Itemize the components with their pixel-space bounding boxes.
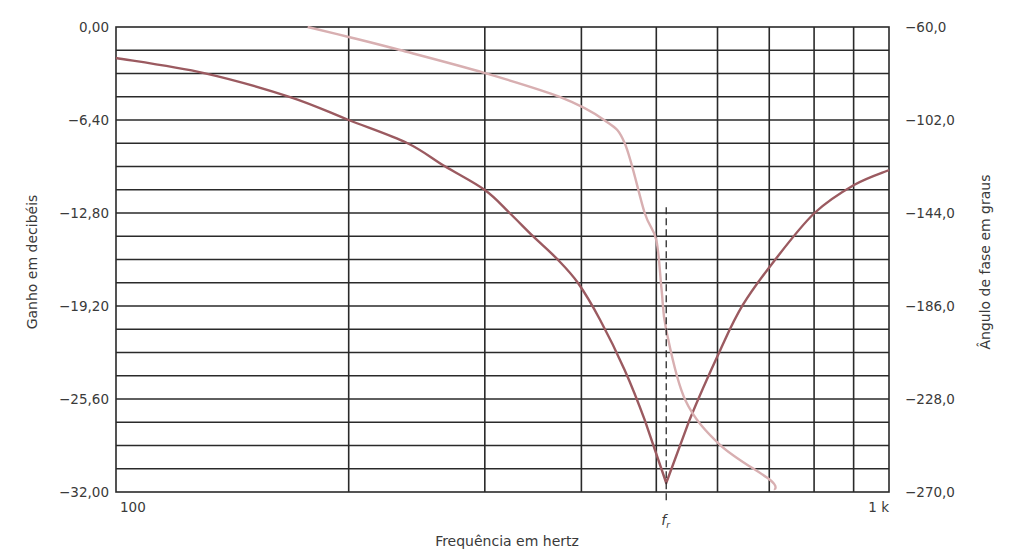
y2-tick-label: −228,0 [905,391,955,407]
x-tick-label: 100 [120,499,146,515]
x-tick-label: 1 k [868,499,889,515]
y-tick-label: 0,00 [79,19,109,35]
y2-tick-label: −270,0 [905,484,955,500]
y-tick-label: −32,00 [59,484,109,500]
y-axis-title: Ganho em decibéis [24,195,40,330]
x-axis-title: Frequência em hertz [435,533,579,549]
right-axis-ticks: −60,0−102,0−144,0−186,0−228,0−270,0 [905,19,955,500]
y2-tick-label: −60,0 [905,19,946,35]
x-axis-ticks: 1001 k [120,499,889,515]
y2-tick-label: −144,0 [905,205,955,221]
left-axis-ticks: 0,00−6,40−12,80−19,20−25,60−32,00 [59,19,109,500]
y-tick-label: −12,80 [59,205,109,221]
y-tick-label: −19,20 [59,298,109,314]
y-tick-label: −25,60 [59,391,109,407]
y-tick-label: −6,40 [68,112,109,128]
grid [116,27,889,492]
y2-tick-label: −186,0 [905,298,955,314]
bode-chart: fr 0,00−6,40−12,80−19,20−25,60−32,00 −60… [0,0,1011,555]
y2-tick-label: −102,0 [905,112,955,128]
gain-curve [116,58,889,483]
resonance-label: fr [661,512,671,530]
y2-axis-title: Ângulo de fase em graus [976,174,993,349]
